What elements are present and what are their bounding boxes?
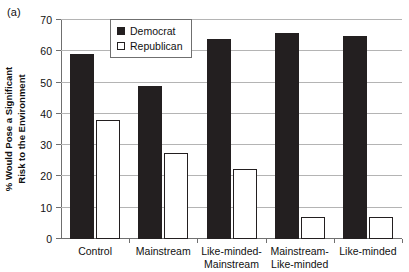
x-axis-label-mainstream-like-minded: Mainstream-Like-minded — [266, 245, 334, 270]
x-axis-label-like-minded-mainstream: Like-minded-Mainstream — [197, 245, 265, 270]
bar-republican-mainstream-like-minded — [301, 217, 325, 239]
x-axis-label-line: Like-minded — [339, 245, 396, 257]
y-axis-tick-label: 30 — [40, 139, 52, 151]
y-axis-tick: 10 — [56, 207, 61, 208]
x-axis-tick — [197, 239, 198, 243]
x-axis-tick — [334, 239, 335, 243]
y-axis-tick: 20 — [56, 175, 61, 176]
y-axis-tick-label: 20 — [40, 170, 52, 182]
bar-democrat-mainstream — [138, 86, 162, 239]
x-axis-tick — [402, 239, 403, 243]
x-axis-label-mainstream: Mainstream — [129, 245, 197, 258]
bar-republican-like-minded-mainstream — [233, 169, 257, 239]
y-axis-tick: 40 — [56, 113, 61, 114]
y-axis-title: % Would Pose a Significant Risk to the E… — [0, 18, 30, 240]
legend-swatch-republican-icon — [117, 42, 125, 50]
bar-republican-mainstream — [164, 153, 188, 239]
legend-item-republican: Republican — [117, 38, 183, 53]
bar-democrat-mainstream-like-minded — [275, 33, 299, 239]
x-axis-label-line: Like-minded- — [201, 245, 262, 257]
y-axis-tick-label: 0 — [46, 233, 52, 245]
y-axis-tick-label: 50 — [40, 77, 52, 89]
y-axis-tick-label: 10 — [40, 202, 52, 214]
legend: Democrat Republican — [110, 19, 192, 58]
y-axis-tick-label: 40 — [40, 108, 52, 120]
y-axis-title-line-2: Risk to the Environment — [15, 67, 28, 191]
y-axis-tick: 60 — [56, 50, 61, 51]
y-axis-tick-label: 60 — [40, 45, 52, 57]
legend-label-democrat: Democrat — [130, 25, 176, 37]
y-axis-tick-label: 70 — [40, 14, 52, 26]
y-axis-tick: 0 — [56, 238, 61, 239]
y-axis-tick: 50 — [56, 82, 61, 83]
legend-item-democrat: Democrat — [117, 23, 183, 38]
x-axis-label-line: Control — [78, 245, 112, 257]
y-axis-tick: 30 — [56, 144, 61, 145]
y-axis-tick: 70 — [56, 19, 61, 20]
bar-democrat-like-minded-mainstream — [207, 39, 231, 239]
x-axis-label-control: Control — [61, 245, 129, 258]
legend-swatch-democrat-icon — [117, 27, 125, 35]
x-axis-label-like-minded: Like-minded — [334, 245, 402, 258]
bar-republican-control — [96, 120, 120, 239]
legend-label-republican: Republican — [130, 40, 183, 52]
x-axis-label-line: Mainstream — [136, 245, 191, 257]
bar-democrat-control — [70, 54, 94, 239]
x-axis-tick — [129, 239, 130, 243]
bar-republican-like-minded — [369, 217, 393, 239]
figure-panel-a: (a) % Would Pose a Significant Risk to t… — [0, 0, 409, 272]
x-axis-label-line: Like-minded — [266, 258, 334, 271]
x-axis-label-line: Mainstream — [197, 258, 265, 271]
x-axis-label-line: Mainstream- — [271, 245, 329, 257]
bar-democrat-like-minded — [343, 36, 367, 239]
y-axis-title-line-1: % Would Pose a Significant — [3, 67, 14, 191]
x-axis-tick — [266, 239, 267, 243]
